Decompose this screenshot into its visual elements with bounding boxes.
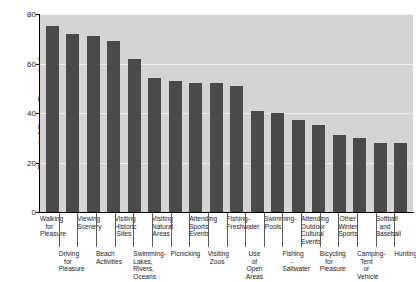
x-tick-label-line: Pleasure [40,230,59,238]
x-label-separator [264,213,265,247]
x-tick-label: VisitingNaturalAreas [152,215,171,238]
x-label-separator [320,213,321,247]
bar [353,138,366,212]
x-tick-label-line: Vehicle [357,273,376,281]
bar-slot [350,14,371,212]
x-label-separator [227,213,228,247]
bar-slot [145,14,166,212]
x-tick-label: SoftballandBaseball [376,215,395,238]
x-tick-label-line: Pleasure [59,265,78,273]
bar-slot [329,14,350,212]
bar [87,36,100,212]
bar-slot [391,14,412,212]
x-tick-label-line: Fishing- [227,215,246,223]
x-tick-label: ViewingScenery [77,215,96,230]
x-tick-label-line: Camping- [357,250,376,258]
x-tick-label-line: Areas [152,230,171,238]
x-label-separator [245,213,246,247]
x-tick-label-line: Other [338,215,357,223]
y-tick-label: 60 [2,59,36,68]
bar [210,83,223,212]
bar [271,113,284,212]
x-tick-label-line: Visiting [208,250,227,258]
y-axis-line [39,14,40,213]
x-tick-label-line: Attending [301,215,320,223]
bar-series [40,14,413,212]
x-tick-label-line: Bicycling [320,250,339,258]
x-label-separator [357,213,358,247]
x-tick-label-line: Events [189,230,208,238]
x-tick-label: Camping-Tent orVehicle [357,250,376,280]
x-tick-label-line: Attending [189,215,208,223]
x-label-separator [171,213,172,247]
x-tick-label-line: Freshwater [227,223,246,231]
x-tick-label-line: Swimming- [264,215,283,223]
x-tick-label: Use ofOpenAreas [245,250,264,280]
x-tick-label-line: Open [245,265,264,273]
x-tick-label-line: for [40,223,59,231]
x-tick-label: Fishing-Freshwater [227,215,246,230]
plot-area [40,14,413,212]
x-tick-label-line: Tent or [357,258,376,273]
x-tick-label: AttendingSportsEvents [189,215,208,238]
x-label-separator [152,213,153,247]
x-tick-label-line: Zoos [208,258,227,266]
bar [66,34,79,212]
bar-slot [268,14,289,212]
x-tick-label-line: Pools [264,223,283,231]
x-tick-label-line: Visiting [115,215,134,223]
x-tick-label-line: Historic [115,223,134,231]
x-tick-label-line: Natural [152,223,171,231]
bar-slot [206,14,227,212]
bar-slot [83,14,104,212]
bar [394,143,407,212]
x-tick-label-line: Visiting [152,215,171,223]
x-tick-label: VisitingHistoricSites [115,215,134,238]
x-tick-label-line: Winter [338,223,357,231]
x-tick-label: BicyclingforPleasure [320,250,339,273]
bar-slot [124,14,145,212]
bar [46,26,59,212]
x-label-separator [115,213,116,247]
x-label-separator [301,213,302,247]
x-tick-label-line: and [376,223,395,231]
bar-slot [104,14,125,212]
x-label-separator [96,213,97,247]
bar-slot [309,14,330,212]
x-label-separator [59,213,60,247]
x-tick-label: AttendingOutdoorCulturalEvents [301,215,320,245]
x-tick-label: Swimming-Lakes,Rivers,Oceans [133,250,152,280]
x-tick-label-line: Events [301,238,320,246]
x-tick-label-line: Oceans [133,273,152,281]
x-tick-label: OtherWinterSports [338,215,357,238]
bar-slot [186,14,207,212]
x-tick-label-line: Hunting [394,250,413,258]
bar-slot [370,14,391,212]
x-tick-label-line: Walking [40,215,59,223]
bar-slot [165,14,186,212]
x-tick-label-line: Areas [245,273,264,281]
y-tick-label: 0 [2,208,36,217]
x-tick-label-line: Saltwater [282,265,301,273]
x-tick-label-line: Beach [96,250,115,258]
x-tick-label-line: Activities [96,258,115,266]
x-tick-label-line: Viewing [77,215,96,223]
x-tick-label: BeachActivities [96,250,115,265]
bar-chart: Percent of Survey Respondents 020406080 … [0,0,416,282]
x-tick-label-line: Picnicking [171,250,190,258]
bar [312,125,325,212]
x-label-separator [77,213,78,247]
x-tick-label-line: Sports [338,230,357,238]
x-tick-label: Swimming-Pools [264,215,283,230]
bar [230,86,243,212]
x-label-separator [282,213,283,247]
x-tick-label-line: Scenery [77,223,96,231]
y-tick-label: 80 [2,10,36,19]
x-tick-label-line: Rivers, [133,265,152,273]
bar [292,120,305,212]
y-tick-label: 40 [2,109,36,118]
bar [374,143,387,212]
x-tick-label: WalkingforPleasure [40,215,59,238]
x-label-separator [189,213,190,247]
x-tick-label-line: Outdoor [301,223,320,231]
